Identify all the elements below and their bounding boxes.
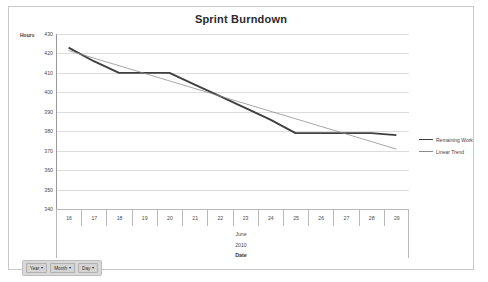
y-axis-tick-label: 350 — [44, 187, 53, 193]
chevron-down-icon: ▾ — [41, 266, 43, 270]
x-axis-tick-label: 18 — [106, 209, 131, 226]
y-axis-tick-label: 360 — [44, 167, 53, 173]
legend: Remaining WorkLinear Trend — [419, 135, 473, 159]
legend-item[interactable]: Remaining Work — [419, 135, 473, 144]
x-axis-tick-label: 16 — [56, 209, 81, 226]
pivot-field-button-day[interactable]: Day▾ — [78, 263, 98, 273]
chevron-down-icon: ▾ — [69, 266, 71, 270]
y-axis-tick-label: 430 — [44, 31, 53, 37]
pivot-field-button-month[interactable]: Month▾ — [50, 263, 75, 273]
x-axis-tick-label: 24 — [258, 209, 283, 226]
plot-area — [56, 34, 409, 209]
y-axis-tick-label: 420 — [44, 50, 53, 56]
y-axis-tick-label: 380 — [44, 128, 53, 134]
y-axis-tick-label: 370 — [44, 148, 53, 154]
legend-label: Remaining Work — [436, 137, 473, 143]
pivot-field-bar: Year▾Month▾Day▾ — [22, 260, 102, 276]
pivot-field-button-year[interactable]: Year▾ — [26, 263, 47, 273]
chart-frame: Sprint Burndown Hours 430420410400390380… — [8, 6, 474, 270]
y-axis-tick-label: 390 — [44, 109, 53, 115]
chevron-down-icon: ▾ — [92, 266, 94, 270]
x-axis-tick-label: 27 — [333, 209, 358, 226]
y-axis-tick-labels: 430420410400390380370360350340 — [9, 34, 53, 209]
x-axis-tick-label: 29 — [384, 209, 409, 226]
x-axis-tick-label: 19 — [132, 209, 157, 226]
x-axis-tick-label: 21 — [182, 209, 207, 226]
chart-title: Sprint Burndown — [9, 13, 473, 25]
legend-swatch — [419, 151, 433, 152]
pivot-field-label: Day — [82, 266, 90, 271]
x-axis-tick-label: 26 — [308, 209, 333, 226]
x-axis-tick-label: 25 — [283, 209, 308, 226]
series-lines — [56, 34, 409, 209]
series-line — [69, 48, 397, 136]
series-line — [69, 51, 397, 150]
y-axis-tick-label: 340 — [44, 206, 53, 212]
x-axis-tick-label: 28 — [359, 209, 384, 226]
pivot-field-label: Year — [30, 266, 39, 271]
axis-group-label-month: June — [9, 231, 473, 237]
legend-item[interactable]: Linear Trend — [419, 147, 473, 156]
y-axis-tick-label: 400 — [44, 89, 53, 95]
axis-group-label-year: 2010 — [9, 242, 473, 248]
x-axis-tick-label: 23 — [233, 209, 258, 226]
legend-swatch — [419, 139, 433, 141]
y-axis-line — [56, 34, 57, 209]
pivot-field-label: Month — [54, 266, 67, 271]
x-axis-tick-label: 20 — [157, 209, 182, 226]
x-axis-title: Date — [9, 252, 473, 258]
category-axis: 1617181920212223242526272829 — [56, 209, 409, 226]
x-axis-tick-label: 22 — [207, 209, 232, 226]
legend-label: Linear Trend — [436, 149, 464, 155]
y-axis-tick-label: 410 — [44, 70, 53, 76]
x-axis-tick-label: 17 — [81, 209, 106, 226]
